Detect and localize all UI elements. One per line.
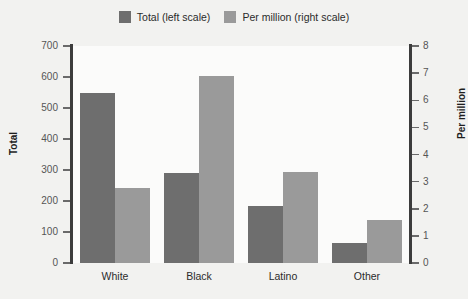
right-tick-mark bbox=[412, 235, 419, 237]
left-tick-label: 500 bbox=[18, 103, 58, 113]
right-tick-label: 4 bbox=[423, 150, 453, 160]
bar-chart: Total (left scale) Per million (right sc… bbox=[0, 0, 468, 299]
right-tick-mark bbox=[412, 72, 419, 74]
right-tick-label: 8 bbox=[423, 41, 453, 51]
category-label: Latino bbox=[241, 270, 325, 282]
legend-entry-per-million: Per million (right scale) bbox=[224, 11, 349, 23]
left-tick-mark bbox=[63, 138, 70, 140]
right-tick-label: 0 bbox=[423, 258, 453, 268]
left-tick-label: 0 bbox=[18, 258, 58, 268]
left-tick-mark bbox=[63, 45, 70, 47]
right-tick-label: 1 bbox=[423, 231, 453, 241]
bar-per-million bbox=[283, 172, 318, 263]
left-tick-mark bbox=[63, 262, 70, 264]
right-tick-mark bbox=[412, 208, 419, 210]
left-tick-label: 600 bbox=[18, 72, 58, 82]
legend-swatch-per-million bbox=[224, 11, 236, 23]
right-tick-label: 7 bbox=[423, 68, 453, 78]
bar-total bbox=[164, 173, 199, 263]
chart-legend: Total (left scale) Per million (right sc… bbox=[0, 11, 468, 23]
bar-total bbox=[80, 93, 115, 264]
legend-label-total: Total (left scale) bbox=[137, 11, 211, 23]
right-tick-mark bbox=[412, 45, 419, 47]
right-tick-mark bbox=[412, 154, 419, 156]
right-tick-mark bbox=[412, 100, 419, 102]
right-tick-mark bbox=[412, 181, 419, 183]
right-tick-label: 5 bbox=[423, 122, 453, 132]
right-tick-mark bbox=[412, 127, 419, 129]
right-tick-label: 2 bbox=[423, 204, 453, 214]
right-tick-label: 3 bbox=[423, 177, 453, 187]
left-tick-label: 700 bbox=[18, 41, 58, 51]
legend-label-per-million: Per million (right scale) bbox=[242, 11, 349, 23]
right-axis-title: Per million bbox=[456, 88, 467, 139]
right-tick-mark bbox=[412, 262, 419, 264]
left-axis-spine bbox=[70, 44, 73, 264]
category-label: Black bbox=[157, 270, 241, 282]
left-tick-mark bbox=[63, 200, 70, 202]
left-tick-label: 300 bbox=[18, 165, 58, 175]
category-label: Other bbox=[325, 270, 409, 282]
right-tick-label: 6 bbox=[423, 95, 453, 105]
left-tick-mark bbox=[63, 169, 70, 171]
bar-per-million bbox=[199, 76, 234, 263]
bar-per-million bbox=[115, 188, 150, 263]
left-tick-mark bbox=[63, 76, 70, 78]
bar-per-million bbox=[367, 220, 402, 263]
bar-total bbox=[248, 206, 283, 263]
legend-swatch-total bbox=[119, 11, 131, 23]
left-tick-label: 400 bbox=[18, 134, 58, 144]
category-label: White bbox=[73, 270, 157, 282]
left-tick-mark bbox=[63, 231, 70, 233]
left-tick-mark bbox=[63, 107, 70, 109]
left-tick-label: 100 bbox=[18, 227, 58, 237]
legend-entry-total: Total (left scale) bbox=[119, 11, 211, 23]
bar-total bbox=[332, 243, 367, 263]
left-tick-label: 200 bbox=[18, 196, 58, 206]
